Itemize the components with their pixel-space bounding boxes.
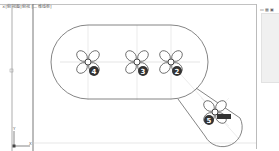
svg-text:2: 2 — [175, 68, 180, 76]
panel-list[interactable] — [261, 13, 279, 83]
slot-edge-lower — [178, 99, 205, 136]
cad-viewport[interactable]: ×[俯视图]俯视 [二维线框] 4 — [0, 0, 279, 151]
svg-text:Y: Y — [12, 126, 16, 131]
svg-text:3: 3 — [141, 68, 146, 76]
label-tag — [217, 114, 231, 119]
fan-symbol-5: 5 — [201, 98, 231, 126]
drawing-canvas[interactable]: 4 3 2 — [0, 0, 279, 151]
panel-toolbar-icons[interactable]: ▭ ▦ ▣ — [260, 7, 274, 12]
ucs-axis-icon: Y X — [12, 126, 32, 148]
svg-text:5: 5 — [207, 117, 212, 125]
right-panel: ▭ ▦ ▣ — [256, 4, 279, 149]
side-marker-icon — [10, 69, 13, 72]
svg-text:4: 4 — [92, 68, 97, 76]
svg-text:X: X — [29, 141, 32, 146]
